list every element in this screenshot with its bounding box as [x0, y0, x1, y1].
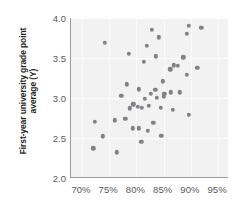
gridline-vertical [218, 18, 219, 177]
plot-area [70, 18, 228, 178]
data-point [140, 105, 144, 109]
data-point [148, 92, 152, 96]
gridline-horizontal [71, 138, 228, 139]
plot-canvas [71, 18, 228, 177]
data-point [123, 117, 127, 121]
data-point [139, 140, 143, 144]
data-point [151, 121, 155, 125]
data-point [131, 102, 135, 106]
data-point [178, 90, 182, 94]
gridline-vertical [82, 18, 83, 177]
data-point [159, 105, 163, 109]
data-point [103, 41, 107, 45]
data-point [146, 129, 150, 133]
data-point [184, 32, 188, 36]
y-axis-title: First-year university grade point averag… [13, 15, 43, 167]
data-point [128, 106, 132, 110]
data-point [127, 52, 131, 56]
scatter-plot-figure: First-year university grade point averag… [0, 0, 241, 202]
y-axis-tick-label: 2.5 [40, 133, 66, 144]
data-point [145, 44, 149, 48]
y-axis-tick-label: 4.0 [40, 13, 66, 24]
x-axis-tick-label: 75% [93, 184, 123, 195]
data-point [130, 126, 134, 130]
data-point [149, 28, 153, 32]
data-point [157, 35, 161, 39]
x-axis-tick-label: 80% [120, 184, 150, 195]
data-point [169, 90, 173, 94]
gridline-horizontal [71, 18, 228, 19]
gridline-horizontal [71, 58, 228, 59]
gridline-vertical [136, 18, 137, 177]
x-axis-tick-label: 95% [202, 184, 232, 195]
data-point [185, 73, 189, 77]
data-point [154, 96, 158, 100]
data-point [91, 146, 95, 150]
data-point [168, 67, 172, 71]
x-axis-tick-label: 85% [148, 184, 178, 195]
data-point [153, 88, 157, 92]
y-axis-tick-label: 3.5 [40, 53, 66, 64]
x-axis-tick-label: 90% [175, 184, 205, 195]
data-point [93, 120, 97, 124]
data-point [171, 108, 175, 112]
data-point [147, 104, 151, 108]
data-point [143, 97, 147, 101]
data-point [124, 82, 128, 86]
data-point [176, 64, 180, 68]
data-point [136, 126, 140, 130]
gridline-vertical [109, 18, 110, 177]
data-point [199, 25, 203, 29]
y-axis-tick-label: 2.0 [40, 173, 66, 184]
data-point [142, 60, 146, 64]
y-axis-tick-label: 3.0 [40, 93, 66, 104]
data-point [115, 150, 119, 154]
gridline-vertical [191, 18, 192, 177]
x-axis-tick-label: 70% [66, 184, 96, 195]
gridline-horizontal [71, 98, 228, 99]
data-point [136, 87, 140, 91]
data-point [195, 65, 199, 69]
data-point [112, 118, 116, 122]
